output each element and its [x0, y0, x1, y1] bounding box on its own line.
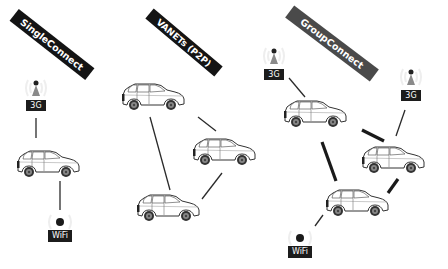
3g-tower-icon-group-right: [401, 69, 421, 85]
link-group-1-2: [362, 130, 384, 141]
3g-tower-icon-single: [26, 80, 46, 96]
car-icon-group-3: [326, 190, 388, 216]
link-3g-right: [396, 110, 405, 136]
link-group-2-3: [388, 179, 398, 193]
car-icon-group-1: [284, 101, 346, 127]
3g-tower-icon-group-left: [264, 48, 284, 64]
car-icon-group-2: [362, 147, 424, 173]
link-vanet-1-3: [150, 117, 170, 190]
wifi-icon-group: [289, 231, 311, 245]
car-icon-single: [17, 151, 79, 177]
link-car-wifi-group: [315, 215, 323, 226]
diagram-graphics: [0, 0, 448, 269]
car-icon-vanet-3: [137, 195, 199, 221]
wifi-label-group: WiFi: [288, 246, 312, 258]
car-icon-vanet-1: [122, 84, 184, 110]
car-icon-vanet-2: [193, 139, 255, 165]
3g-label-group-left: 3G: [264, 69, 284, 80]
link-3g-left: [289, 78, 305, 97]
3g-label-group-right: 3G: [401, 90, 421, 101]
link-group-1-3: [322, 142, 336, 181]
wifi-label-single: WiFi: [48, 230, 72, 242]
3g-label-single: 3G: [26, 100, 46, 111]
link-vanet-2-3: [202, 173, 222, 199]
diagram-canvas: SingleConnect VANETs (P2P) GroupConnect …: [0, 0, 448, 269]
wifi-icon-single: [49, 215, 71, 229]
link-vanet-1-2: [198, 117, 216, 131]
